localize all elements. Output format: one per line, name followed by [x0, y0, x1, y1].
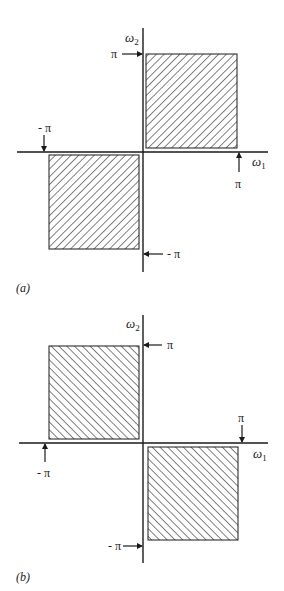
marker-top-pi: π — [111, 47, 142, 61]
panel-b: ω2 ω1 π - π π - π (b) — [16, 315, 268, 584]
panel-b-caption: (b) — [16, 570, 30, 584]
panel-a: ω2 ω1 π - π π - π (a) — [16, 28, 268, 295]
omega1-axis-label: ω1 — [253, 446, 267, 463]
marker-top-pi: π — [144, 338, 173, 352]
omega2-axis-label: ω2 — [125, 30, 139, 47]
marker-bottom-neg-pi: - π — [108, 539, 142, 553]
svg-text:π: π — [238, 411, 244, 425]
omega2-axis-label: ω2 — [126, 316, 140, 333]
panel-a-caption: (a) — [16, 281, 30, 295]
svg-text:π: π — [111, 47, 117, 61]
marker-left-neg-pi: - π — [38, 121, 51, 151]
svg-text:π: π — [167, 338, 173, 352]
svg-text:- π: - π — [37, 466, 50, 480]
shaded-region-second-quadrant — [49, 346, 139, 439]
omega1-axis-label: ω1 — [252, 154, 266, 171]
svg-text:- π: - π — [38, 121, 51, 135]
shaded-region-fourth-quadrant — [148, 447, 238, 540]
shaded-region-third-quadrant — [49, 155, 139, 249]
marker-right-pi: π — [235, 153, 241, 191]
svg-text:- π: - π — [167, 247, 180, 261]
marker-left-neg-pi: - π — [37, 444, 50, 480]
svg-text:π: π — [235, 177, 241, 191]
svg-text:- π: - π — [108, 539, 121, 553]
marker-right-pi: π — [238, 411, 244, 442]
marker-bottom-neg-pi: - π — [144, 247, 180, 261]
frequency-plane-figure: ω2 ω1 π - π π - π (a) — [0, 0, 284, 591]
shaded-region-first-quadrant — [146, 54, 237, 148]
